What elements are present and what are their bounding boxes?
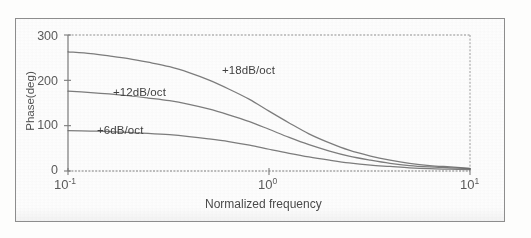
x-tick-label-1e0: 100 <box>258 176 277 192</box>
curve-label-12db: +12dB/oct <box>113 86 166 98</box>
chart-plot-area: 300 200 100 0 Phase(deg) 10-1 100 101 No… <box>0 0 531 238</box>
x-tick-exponent: 1 <box>474 176 479 186</box>
x-tick-base: 10 <box>460 177 474 192</box>
x-tick-base: 10 <box>54 177 68 192</box>
curve-label-6db: +6dB/oct <box>97 124 144 136</box>
curve-label-18db: +18dB/oct <box>222 64 275 76</box>
y-axis-title: Phase(deg) <box>24 51 36 151</box>
x-tick-label-1e-1: 10-1 <box>54 176 76 192</box>
y-tick-label-300: 300 <box>24 29 58 43</box>
y-tick-label-0: 0 <box>24 163 58 177</box>
x-tick-exponent: 0 <box>272 176 277 186</box>
x-tick-base: 10 <box>258 177 272 192</box>
x-tick-label-1e1: 101 <box>460 176 479 192</box>
x-axis-title: Normalized frequency <box>205 197 322 211</box>
axis-frame <box>68 35 470 171</box>
x-tick-exponent: -1 <box>68 176 76 186</box>
